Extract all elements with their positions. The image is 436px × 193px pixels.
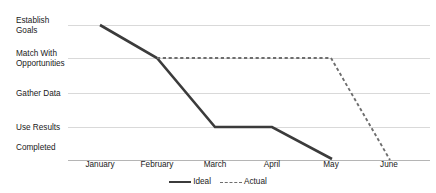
x-axis-label-june: June [380,160,398,170]
legend-label-actual: Actual [244,177,267,187]
y-axis-label-completed: Completed [16,143,78,153]
x-axis-label-march: March [204,160,227,170]
y-axis-label-line2: Opportunities [16,59,78,69]
x-axis-label-january: January [85,160,114,170]
y-axis-label-line1: Establish [16,16,78,26]
legend-item-actual[interactable]: Actual [220,177,267,187]
chart-legend: Ideal Actual [0,177,436,187]
y-axis-label-use-results: Use Results [16,123,78,133]
x-axis-label-may: May [323,160,338,170]
y-axis-label-establish-goals: Establish Goals [16,16,78,36]
y-axis-label-gather-data: Gather Data [16,89,78,99]
legend-label-ideal: Ideal [193,177,211,187]
legend-swatch-dashed-icon [220,182,242,183]
legend-swatch-solid-icon [169,181,191,183]
legend-item-ideal[interactable]: Ideal [169,177,211,187]
x-axis-label-april: April [264,160,280,170]
x-axis-label-february: February [141,160,174,170]
progress-timeline-chart: Establish Goals Match With Opportunities… [0,0,436,193]
y-axis-label-match-with-opportunities: Match With Opportunities [16,49,78,69]
y-axis-label-line2: Goals [16,26,78,36]
y-axis-label-line1: Match With [16,49,78,59]
series-line-actual [157,58,390,160]
series-line-ideal [100,25,332,159]
gridlines [68,26,430,161]
